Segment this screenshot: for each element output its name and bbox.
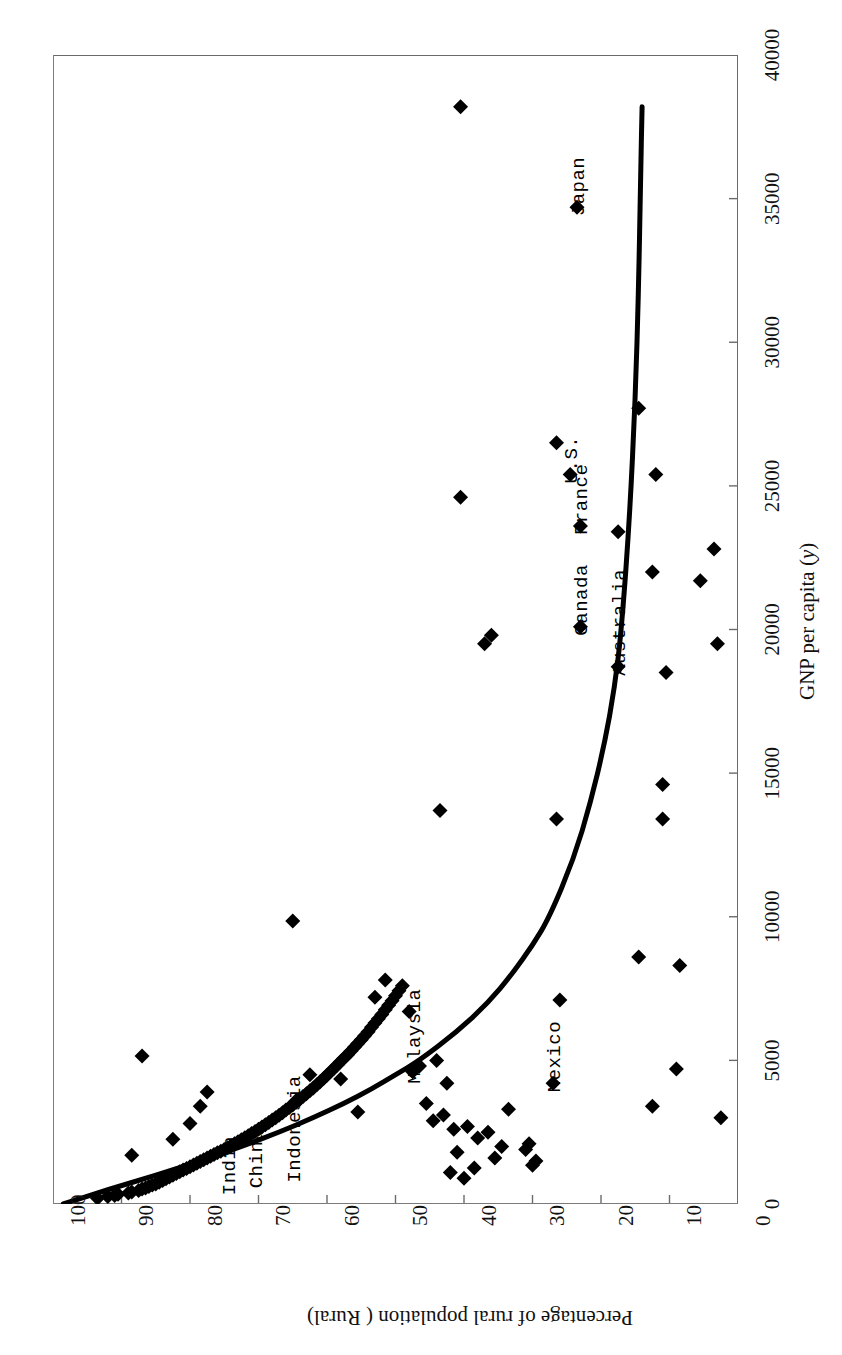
data-point [460,1119,475,1134]
data-point [655,812,670,827]
data-point [501,1102,516,1117]
x-tick-label: 20000 [760,603,785,656]
data-point [419,1096,434,1111]
data-point [655,777,670,792]
data-point [457,1171,472,1186]
data-point [707,542,722,557]
data-point [367,990,382,1005]
data-point [285,914,300,929]
data-point [450,1145,465,1160]
point-label-canada: Canada [571,564,593,635]
data-point [645,1099,660,1114]
x-axis-title-symbol: y [795,550,819,559]
x-tick-label: 10000 [760,891,785,944]
data-point [183,1116,198,1131]
x-axis-title-paren: ) [795,543,819,550]
point-label-japan: Japan [568,157,590,217]
point-label-china: China [246,1129,268,1189]
data-point [124,1148,139,1163]
data-point [631,949,646,964]
data-point [710,636,725,651]
y-tick-label: 50 [408,1205,433,1226]
data-point [193,1099,208,1114]
data-point [611,524,626,539]
x-tick-label: 40000 [760,29,785,82]
data-point [443,1165,458,1180]
plot-area [53,55,738,1204]
data-point [135,1049,150,1064]
data-point [494,1139,509,1154]
x-tick-label: 35000 [760,172,785,225]
y-tick-label: 60 [340,1205,365,1226]
x-tick-label: 30000 [760,316,785,369]
data-point [648,467,663,482]
axis-lines [53,55,738,1204]
y-tick-label: 100 [66,1195,91,1227]
data-point [446,1122,461,1137]
data-point [659,665,674,680]
y-tick-label: 40 [477,1205,502,1226]
data-point [439,1076,454,1091]
data-point [200,1084,215,1099]
data-point [487,1151,502,1166]
y-tick-label: 0 [751,1216,776,1227]
point-label-indonesia: Indonesia [284,1075,306,1182]
x-tick-label: 15000 [760,747,785,800]
data-point [378,972,393,987]
y-axis-title: Percentage of rural population ( Rural) [307,1305,633,1330]
data-point [453,99,468,114]
x-tick-label: 25000 [760,460,785,513]
point-label-australia: Australia [609,569,631,676]
y-tick-label: 30 [545,1205,570,1226]
data-point [429,1053,444,1068]
data-point [549,812,564,827]
data-point [672,958,687,973]
y-tick-label: 10 [682,1205,707,1226]
y-tick-label: 90 [134,1205,159,1226]
point-label-malaysia: Malaysia [404,989,426,1084]
y-tick-label: 70 [271,1205,296,1226]
y-tick-label: 80 [203,1205,228,1226]
tick-marks [53,55,738,1204]
data-point [693,573,708,588]
x-axis-title: GNP per capita (y) [795,543,820,700]
data-point [467,1161,482,1176]
data-point [713,1110,728,1125]
point-label-mexico: Mexico [544,1021,566,1092]
data-point [350,1105,365,1120]
data-point [669,1061,684,1076]
data-point [453,490,468,505]
point-label-india: India [219,1136,241,1196]
point-label-france: France [571,464,593,535]
data-point [165,1132,180,1147]
data-point [645,565,660,580]
data-point [552,993,567,1008]
x-tick-label: 0 [760,1199,785,1210]
x-tick-label: 5000 [760,1039,785,1081]
data-point [433,803,448,818]
figure-canvas: 0500010000150002000025000300003500040000… [0,0,842,1355]
x-axis-title-text: GNP per capita ( [795,559,819,700]
y-tick-label: 20 [614,1205,639,1226]
